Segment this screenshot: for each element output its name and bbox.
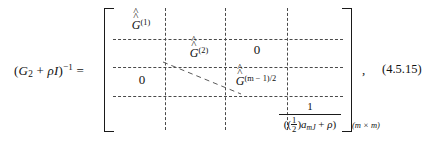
matrix-container: ^ ^ G (1) ^ ^ G (2) ^ ^ G (m − 1)/ [104,8,352,130]
trailing-comma: , [362,62,365,78]
matrix-zero-upper-right: 0 [231,42,283,58]
matrix-block-1: ^ ^ G (1) [119,18,163,33]
scalar-numerator: 1 [279,100,341,115]
matrix-block-3: ^ ^ G (m − 1)/2 [225,74,287,89]
matrix-block-1-superscript: (1) [140,18,150,27]
hat-accent-outer: ^ [237,62,242,73]
matrix-block-3-superscript: (m − 1)/2 [244,74,276,83]
partition-hline-1 [113,39,343,40]
matrix-scalar-entry: 1 ((12)amJ + ρ) [279,100,341,134]
equation-left-hand-side: (G2 + ρI)−1 = [14,62,84,79]
equation-number: (4.5.15) [382,62,422,77]
matrix-bracket-right [342,8,352,132]
matrix-zero-lower-left: 0 [119,72,165,88]
denominator-close-paren: ) [333,117,337,129]
equation-figure: (G2 + ρI)−1 = ^ ^ G (1) [0,0,438,154]
lhs-exponent: −1 [63,62,73,72]
lhs-plus-sign: + [33,63,47,78]
matrix-body: ^ ^ G (1) ^ ^ G (2) ^ ^ G (m − 1)/ [113,8,343,130]
denominator-variable-subscript: mJ [307,122,316,131]
matrix-dimension-label: (m × m) [352,120,380,130]
hat-accent-outer: ^ [191,34,196,45]
matrix-block-2-superscript: (2) [198,46,208,55]
matrix-block-2: ^ ^ G (2) [175,46,223,61]
lhs-matrix-symbol: G [19,63,29,78]
hat-accent-outer: ^ [133,6,138,17]
scalar-denominator: ((12)amJ + ρ) [279,115,341,134]
denominator-plus: + [316,117,328,129]
equals-sign: = [76,63,84,78]
